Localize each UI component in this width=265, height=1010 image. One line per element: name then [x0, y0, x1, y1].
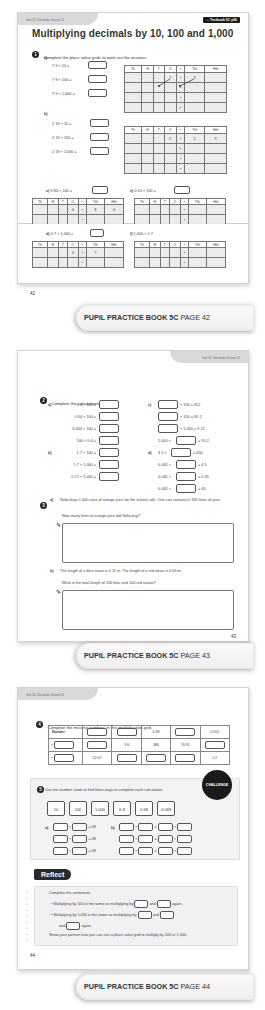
multiplier-input[interactable]	[54, 754, 74, 762]
question-3a-prompt: How many litres of orange juice did Sofi…	[62, 514, 140, 518]
answer-input[interactable]	[66, 922, 80, 930]
grid-header: Hth	[205, 66, 227, 73]
answer-input[interactable]	[176, 460, 196, 469]
part-a-label: a)	[45, 826, 48, 830]
answer-input[interactable]	[53, 847, 68, 855]
number-card[interactable]: 10	[47, 801, 65, 816]
answer-input[interactable]	[175, 728, 195, 736]
answer-input[interactable]	[90, 147, 109, 155]
answer-input[interactable]	[176, 484, 196, 493]
answer-input[interactable]	[99, 412, 119, 421]
answer-input[interactable]	[99, 472, 119, 481]
answer-area-3a[interactable]	[62, 523, 234, 563]
answer-input[interactable]	[119, 835, 134, 843]
question-5-text: Use the number cards to find three ways …	[45, 788, 163, 792]
answer-input[interactable]	[87, 728, 107, 736]
calc-text: 0·17 × 1,000 =	[71, 475, 96, 479]
answer-input[interactable]	[138, 847, 153, 855]
answer-input[interactable]	[160, 911, 174, 919]
answer-input[interactable]	[88, 75, 107, 83]
answer-input[interactable]	[138, 911, 152, 919]
answer-input[interactable]	[158, 823, 173, 831]
page-footer-badge: PUPIL PRACTICE BOOK 5C PAGE 42	[76, 305, 254, 331]
answer-input[interactable]	[158, 835, 173, 843]
calc-text: × 1,000 = 9·12	[180, 427, 205, 431]
answer-input[interactable]	[99, 460, 119, 469]
answer-input[interactable]	[92, 186, 108, 194]
answer-input[interactable]	[138, 823, 153, 831]
number-card[interactable]: 1,000	[91, 801, 109, 816]
answer-input[interactable]	[99, 400, 119, 409]
answer-input[interactable]	[157, 900, 171, 908]
answer-input[interactable]	[158, 424, 178, 433]
answer-input[interactable]	[87, 741, 107, 749]
answer-input[interactable]	[177, 835, 192, 843]
answer-input[interactable]	[72, 847, 87, 855]
answer-input[interactable]	[90, 229, 104, 237]
number-card[interactable]: 0·68	[135, 801, 153, 816]
answer-input[interactable]	[176, 436, 196, 445]
calc-text: 2·19 × 10	[52, 122, 68, 126]
equation-row-b3: × = ×	[119, 847, 192, 856]
reflect-bullet-2: • Multiplying by 1,000 is the same as mu…	[51, 911, 174, 920]
answer-input[interactable]	[99, 424, 119, 433]
answer-input[interactable]	[90, 133, 109, 141]
answer-input[interactable]	[177, 847, 192, 855]
answer-input[interactable]	[158, 847, 173, 855]
calc-text: 7·9 × 1,000	[52, 92, 71, 96]
answer-input[interactable]	[119, 847, 134, 855]
answer-input[interactable]	[99, 448, 119, 457]
answer-input[interactable]	[134, 900, 148, 908]
place-value-grid-d: ThHT O• TthHth 0• 7 •	[32, 241, 124, 268]
equation-row-b2: × = ×	[119, 835, 192, 844]
grid-header: Th	[125, 66, 142, 73]
answer-input[interactable]	[177, 823, 192, 831]
answer-input[interactable]	[175, 754, 195, 762]
page-label: PAGE 43	[181, 651, 210, 660]
answer-input[interactable]	[171, 448, 191, 457]
answer-input[interactable]	[53, 835, 68, 843]
answer-input[interactable]	[90, 119, 109, 127]
calc-text: 1·7 × 100 =	[77, 451, 96, 455]
grid-cell[interactable]	[142, 73, 154, 83]
pencil-icon: ✎	[56, 521, 61, 528]
answer-input[interactable]	[99, 436, 119, 445]
answer-input[interactable]	[53, 823, 68, 831]
grid-value: 1·2	[200, 752, 229, 765]
answer-input[interactable]	[146, 754, 166, 762]
calc-text: 7·9 × 100	[52, 78, 68, 82]
answer-input[interactable]	[119, 823, 134, 831]
book-title: PUPIL PRACTICE BOOK 5C	[84, 982, 179, 991]
answer-input[interactable]	[174, 186, 190, 194]
answer-area-3b[interactable]	[62, 590, 234, 630]
calc-text: 1,000 × 1·7	[134, 232, 153, 236]
answer-input[interactable]	[72, 835, 87, 843]
grid-cell[interactable]	[125, 73, 142, 83]
answer-input[interactable]	[117, 728, 137, 736]
textbook-link-badge[interactable]: → Textbook 5C p56	[203, 17, 240, 23]
answer-input[interactable]	[88, 61, 107, 69]
answer-input[interactable]	[117, 754, 137, 762]
question-number-badge: 2	[40, 397, 47, 404]
page-number: 44	[30, 953, 35, 958]
reflect-bullet-1: • Multiplying by 100 is the same as mult…	[51, 900, 182, 909]
answer-input[interactable]	[158, 400, 178, 409]
page-number: 42	[30, 291, 35, 296]
answer-input[interactable]	[72, 823, 87, 831]
answer-input[interactable]	[176, 472, 196, 481]
number-card[interactable]: 100	[69, 801, 87, 816]
place-value-grid-f: ThHT O• TthHth • •	[134, 241, 226, 268]
number-card[interactable]: 0·068	[157, 801, 175, 816]
book-title: PUPIL PRACTICE BOOK 5C	[84, 313, 179, 322]
answer-input[interactable]	[88, 89, 107, 97]
multiplier-input[interactable]	[54, 741, 74, 749]
answer-input[interactable]	[205, 741, 225, 749]
number-card[interactable]: 6·8	[113, 801, 131, 816]
page-title: Multiplying decimals by 10, 100 and 1,00…	[32, 28, 233, 39]
calc-text: 2·19 × 100	[52, 136, 70, 140]
answer-input[interactable]	[138, 835, 153, 843]
binder-holes: ●●●●●●●●●	[26, 889, 28, 943]
pencil-icon: ✎	[56, 588, 61, 595]
answer-input[interactable]	[158, 412, 178, 421]
part-b-label: b)	[50, 569, 54, 573]
